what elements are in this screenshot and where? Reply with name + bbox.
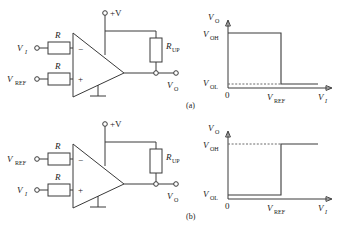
output-label-a: V: [167, 80, 174, 90]
pullup-resistor-sub-a: UP: [172, 47, 180, 53]
ytick-low-sub-b: OL: [210, 195, 218, 201]
input-terminal-vi-a: [35, 46, 40, 51]
x-axis-label-sub-b: I: [324, 209, 328, 215]
origin-label-a: 0: [225, 90, 230, 100]
input-label-vref-a: V: [7, 74, 14, 84]
input-terminal-vref-b: [35, 157, 40, 162]
input-sub-vref-b: REF: [15, 160, 27, 166]
output-node-a: [154, 71, 159, 76]
y-axis-label-b: V: [208, 123, 215, 133]
input-label-vi-b: V: [17, 185, 24, 195]
output-node-b: [154, 182, 159, 187]
series-resistor-label-vref-a: R: [54, 61, 61, 71]
output-sub-b: O: [174, 197, 179, 203]
supply-terminal-a: [103, 11, 108, 16]
pullup-resistor-label-b: R: [165, 152, 172, 162]
ytick-low-sub-a: OL: [210, 84, 218, 90]
x-axis-label-a: V: [318, 92, 325, 102]
supply-wire-a: [105, 15, 156, 38]
xtick-sub-b: REF: [274, 209, 286, 215]
series-resistor-body-vi-a: [48, 42, 70, 54]
supply-wire-b: [105, 126, 156, 149]
ytick-high-sub-a: OH: [210, 35, 219, 41]
ytick-high-label-a: V: [203, 29, 210, 39]
circuit-a: +V R UP − + V I R V REF R: [7, 8, 180, 97]
input-sub-vref-a: REF: [15, 80, 27, 86]
pullup-resistor-label-a: R: [165, 41, 172, 51]
x-axis-label-b: V: [318, 203, 325, 213]
output-sub-a: O: [174, 86, 179, 92]
input-label-vref-b: V: [7, 154, 14, 164]
output-terminal-b: [174, 182, 179, 187]
supply-label-a: +V: [110, 8, 122, 18]
xtick-label-a: V: [267, 92, 274, 102]
figure-comparator-circuits: +V R UP − + V I R V REF R: [0, 0, 340, 225]
series-resistor-body-vref-a: [48, 73, 70, 85]
opamp-minus-a: −: [78, 44, 83, 54]
graph-a: V O V I V OH V OL 0 V REF (a): [186, 12, 332, 110]
pullup-resistor-body-a: [150, 38, 162, 62]
ytick-low-label-b: V: [203, 189, 210, 199]
input-sub-vi-a: I: [24, 49, 28, 55]
series-resistor-label-vref-b: R: [54, 141, 61, 151]
output-label-b: V: [167, 191, 174, 201]
input-sub-vi-b: I: [24, 191, 28, 197]
series-resistor-label-vi-b: R: [54, 172, 61, 182]
input-terminal-vi-b: [35, 188, 40, 193]
output-terminal-a: [174, 71, 179, 76]
y-axis-label-sub-b: O: [215, 129, 220, 135]
ytick-high-label-b: V: [203, 140, 210, 150]
y-axis-label-sub-a: O: [215, 18, 220, 24]
opamp-minus-b: −: [78, 155, 83, 165]
input-terminal-vref-a: [35, 77, 40, 82]
supply-label-b: +V: [110, 119, 122, 129]
series-resistor-label-vi-a: R: [54, 30, 61, 40]
pullup-resistor-body-b: [150, 149, 162, 173]
y-axis-label-a: V: [208, 12, 215, 22]
panel-caption-b: (b): [186, 212, 196, 221]
origin-label-b: 0: [225, 201, 230, 211]
circuit-b: +V R UP − + V REF R V I R V O: [7, 119, 180, 208]
opamp-plus-a: +: [78, 74, 83, 84]
pullup-resistor-sub-b: UP: [172, 158, 180, 164]
xtick-sub-a: REF: [274, 98, 286, 104]
x-axis-label-sub-a: I: [324, 98, 328, 104]
xtick-label-b: V: [267, 203, 274, 213]
ytick-low-label-a: V: [203, 78, 210, 88]
transfer-curve-b: [228, 144, 318, 195]
input-label-vi-a: V: [17, 43, 24, 53]
panel-caption-a: (a): [186, 101, 195, 110]
supply-terminal-b: [103, 122, 108, 127]
ytick-high-sub-b: OH: [210, 146, 219, 152]
opamp-plus-b: +: [78, 185, 83, 195]
series-resistor-body-vi-b: [48, 184, 70, 196]
transfer-curve-a: [228, 33, 318, 84]
graph-b: V O V I V OH V OL 0 V REF (b): [186, 123, 332, 221]
series-resistor-body-vref-b: [48, 153, 70, 165]
